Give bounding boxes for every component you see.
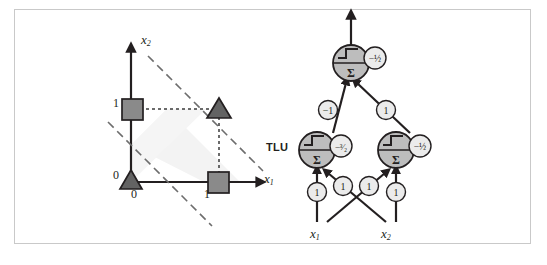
input-label-x2: x2 <box>381 226 391 242</box>
axis-y-label: x2 <box>141 32 151 48</box>
point-1-0 <box>208 172 229 193</box>
svg-text:Σ: Σ <box>313 153 321 167</box>
svg-text:1: 1 <box>341 181 346 192</box>
svg-text:1: 1 <box>394 187 399 198</box>
svg-text:−½: −½ <box>369 54 381 64</box>
axis-x-label: x1 <box>264 171 274 187</box>
neuron-hidden-right[interactable]: Σ <box>378 132 414 168</box>
svg-text:−½: −½ <box>414 142 426 152</box>
weight-x1-to-hidden-right[interactable]: 1 <box>360 177 379 196</box>
bias-hidden-left[interactable]: −³⁄₂ <box>330 135 352 157</box>
bias-output[interactable]: −½ <box>364 47 386 69</box>
figure-canvas: Σ −½ Σ −³⁄₂ Σ −½ <box>0 0 547 265</box>
neuron-hidden-left[interactable]: Σ <box>299 132 335 168</box>
neuron-output[interactable]: Σ <box>333 45 369 81</box>
svg-text:Σ: Σ <box>392 153 400 167</box>
y-tick-1: 1 <box>113 96 119 111</box>
y-tick-0: 0 <box>113 168 119 183</box>
svg-text:Σ: Σ <box>347 66 355 80</box>
point-0-1 <box>122 99 143 120</box>
input-label-x1: x1 <box>310 226 320 242</box>
weight-hidden-right-to-output[interactable]: 1 <box>377 101 396 120</box>
tlu-label: TLU <box>266 141 288 153</box>
weight-x2-to-hidden-right[interactable]: 1 <box>387 183 406 202</box>
svg-text:1: 1 <box>367 181 372 192</box>
point-1-1 <box>207 98 231 118</box>
svg-text:−³⁄₂: −³⁄₂ <box>335 142 347 152</box>
x-tick-1: 1 <box>204 187 210 202</box>
weight-hidden-left-to-output[interactable]: −1 <box>319 101 338 120</box>
bias-hidden-right[interactable]: −½ <box>409 135 431 157</box>
x-tick-0: 0 <box>131 187 137 202</box>
figure-page: Σ −½ Σ −³⁄₂ Σ −½ <box>0 0 547 265</box>
weight-x2-to-hidden-left[interactable]: 1 <box>334 177 353 196</box>
weight-x1-to-hidden-left[interactable]: 1 <box>308 183 327 202</box>
svg-text:1: 1 <box>384 105 389 116</box>
svg-text:1: 1 <box>315 187 320 198</box>
svg-text:−1: −1 <box>323 105 334 116</box>
